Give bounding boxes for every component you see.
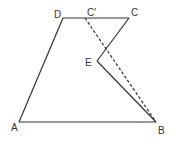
geometry-figure: ABCDEC' [0,0,176,141]
segment-a-d [19,18,63,122]
point-label-b: B [158,125,165,136]
point-labels: ABCDEC' [11,7,165,136]
point-label-c-prime: C' [87,7,96,18]
segment-c-e [97,18,129,61]
segments [19,18,156,122]
point-label-e: E [85,57,92,68]
point-label-d: D [54,9,61,20]
segment-e-b [97,61,156,122]
segment-c_prime-b [85,18,156,122]
point-label-a: A [11,122,18,133]
point-label-c: C [131,7,138,18]
